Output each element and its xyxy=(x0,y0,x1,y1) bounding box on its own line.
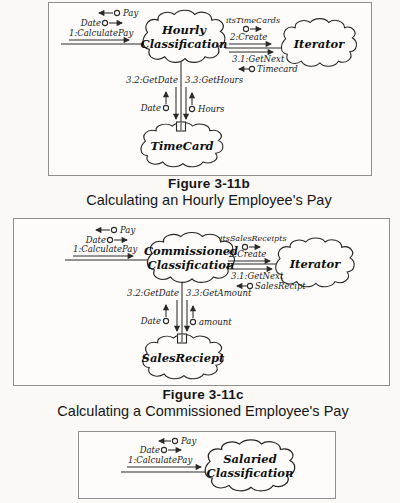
date-return-label: Date xyxy=(140,316,161,326)
timecard-data-circle xyxy=(249,66,254,71)
book-page: Hourly Classification Iterator TimeCard … xyxy=(0,0,400,503)
timecard-message-cluster: 3.2:GetDate 3.3:GetHours Date Hours xyxy=(126,75,244,131)
figure-3-11b-caption: Figure 3-11b Calculating an Hourly Emplo… xyxy=(48,176,370,208)
figure-caption-title: Figure 3-11c xyxy=(7,387,399,402)
amount-return-circle xyxy=(190,319,195,324)
pay-data-circle xyxy=(111,227,116,232)
date-return-circle xyxy=(163,318,168,323)
getnext-message: 3.1:GetNext xyxy=(231,271,284,281)
hours-return-label: Hours xyxy=(197,104,225,114)
hours-return-circle xyxy=(189,106,194,111)
salaried-pay-diagram: Salaried Classification Pay Date 1:Calcu… xyxy=(79,432,335,498)
date-return-circle xyxy=(163,105,168,110)
pay-data-circle xyxy=(114,10,119,15)
figure-3-11c-panel: Commissioned Classification Iterator Sal… xyxy=(13,218,390,386)
date-data-circle xyxy=(161,447,166,452)
getdate-message: 3.2:GetDate xyxy=(127,288,179,298)
hourly-pay-diagram: Hourly Classification Iterator TimeCard … xyxy=(49,3,371,175)
figure-caption-subtitle: Calculating an Hourly Employee's Pay xyxy=(48,192,370,208)
timecard-token-label: Timecard xyxy=(257,64,298,74)
date-token-label: Date xyxy=(80,18,101,28)
getamount-message: 3.3:GetAmount xyxy=(186,288,252,298)
cloud-label: SalesReciept xyxy=(142,351,226,365)
its-timecards-label: itsTimeCards xyxy=(226,16,280,25)
cloud-label-line1: Commissioned xyxy=(144,244,238,258)
hourly-classification-cloud: Hourly Classification xyxy=(141,10,228,62)
salaried-pay-panel: Salaried Classification Pay Date 1:Calcu… xyxy=(78,431,336,499)
calculate-pay-message: 1:CalculatePay xyxy=(128,455,192,465)
cloud-label-line1: Salaried xyxy=(223,452,276,466)
date-data-circle xyxy=(107,237,112,242)
figure-caption-subtitle: Calculating a Commissioned Employee's Pa… xyxy=(7,403,399,419)
calculate-pay-message: 1:CalculatePay xyxy=(69,28,133,38)
cloud-label: TimeCard xyxy=(150,139,213,153)
create-message: 2:Create xyxy=(229,32,267,42)
figure-3-11c-caption: Figure 3-11c Calculating a Commissioned … xyxy=(7,387,399,419)
date-return-label: Date xyxy=(140,103,161,113)
iterator-cloud: Iterator xyxy=(276,238,354,287)
iterator-cloud: Iterator xyxy=(281,19,356,67)
cloud-label-line2: Classification xyxy=(207,466,294,480)
pay-token-label: Pay xyxy=(122,8,138,18)
date-data-circle xyxy=(102,20,107,25)
figure-3-11b-panel: Hourly Classification Iterator TimeCard … xyxy=(48,2,372,176)
salaried-classification-cloud: Salaried Classification xyxy=(205,440,295,491)
gethours-message: 3.3:GetHours xyxy=(185,75,244,85)
salesreceipt-token-label: SalesRecipt xyxy=(255,281,306,291)
create-message: 2:Create xyxy=(228,249,266,259)
its-salesreceipts-label: itsSalesReceipts xyxy=(220,234,287,243)
cloud-label: Iterator xyxy=(289,257,342,271)
amount-return-label: amount xyxy=(199,317,232,327)
pay-token-label: Pay xyxy=(119,225,135,235)
calculate-pay-message: 1:CalculatePay xyxy=(73,244,137,254)
cloud-label-line1: Hourly xyxy=(161,23,207,37)
cloud-label-line2: Classification xyxy=(148,258,235,272)
calculate-pay-cluster: Pay Date 1:CalculatePay xyxy=(73,225,137,256)
getdate-message: 3.2:GetDate xyxy=(126,75,178,85)
calculate-pay-cluster: Pay Date 1:CalculatePay xyxy=(127,436,201,467)
date-token-label: Date xyxy=(139,445,160,455)
pay-data-circle xyxy=(172,438,177,443)
getnext-message: 3.1:GetNext xyxy=(232,54,285,64)
collection-data-circle xyxy=(243,26,248,31)
cloud-label-line2: Classification xyxy=(141,37,228,51)
commissioned-pay-diagram: Commissioned Classification Iterator Sal… xyxy=(14,219,389,385)
cloud-label: Iterator xyxy=(293,37,346,51)
pay-token-label: Pay xyxy=(180,436,196,446)
calculate-pay-cluster: Pay Date 1:CalculatePay xyxy=(69,8,138,40)
figure-caption-title: Figure 3-11b xyxy=(48,176,370,191)
